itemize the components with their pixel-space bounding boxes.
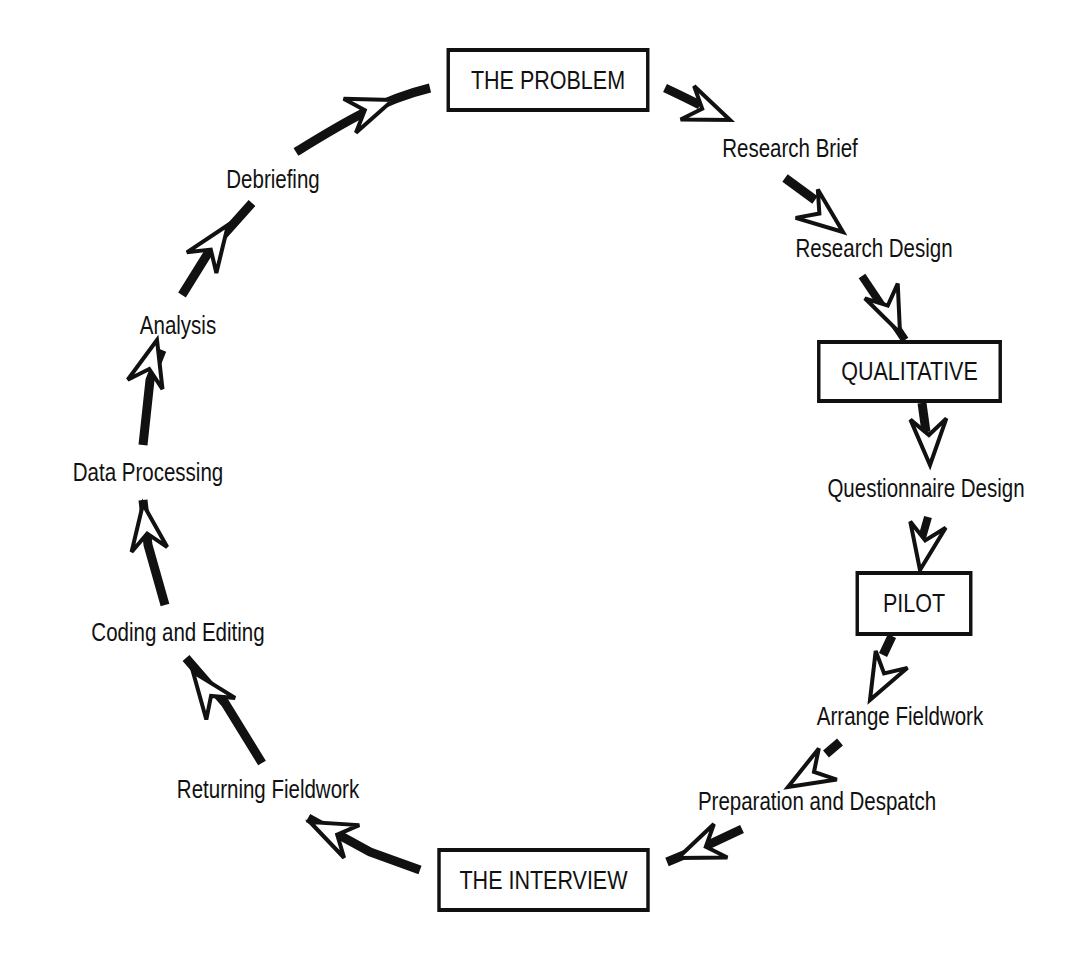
label-analysis: Analysis	[140, 311, 216, 340]
label-returning-fieldwork: Returning Fieldwork	[177, 775, 359, 804]
label-debriefing: Debriefing	[226, 165, 319, 194]
box-the-interview: THE INTERVIEW	[437, 848, 649, 912]
box-qualitative: QUALITATIVE	[817, 340, 1002, 403]
box-the-problem: THE PROBLEM	[447, 48, 650, 112]
label-questionnaire-design: Questionnaire Design	[827, 474, 1024, 503]
box-pilot-label: PILOT	[883, 589, 945, 618]
label-preparation-and-despatch: Preparation and Despatch	[698, 787, 936, 816]
label-research-brief: Research Brief	[722, 134, 858, 163]
box-the-interview-label: THE INTERVIEW	[459, 866, 627, 895]
label-coding-and-editing: Coding and Editing	[91, 618, 264, 647]
box-the-problem-label: THE PROBLEM	[471, 66, 625, 95]
box-pilot: PILOT	[856, 571, 973, 636]
research-cycle-diagram: THE PROBLEM QUALITATIVE PILOT THE INTERV…	[0, 0, 1089, 975]
box-qualitative-label: QUALITATIVE	[841, 357, 978, 386]
label-arrange-fieldwork: Arrange Fieldwork	[817, 702, 983, 731]
label-data-processing: Data Processing	[73, 458, 223, 487]
label-research-design: Research Design	[795, 234, 952, 263]
